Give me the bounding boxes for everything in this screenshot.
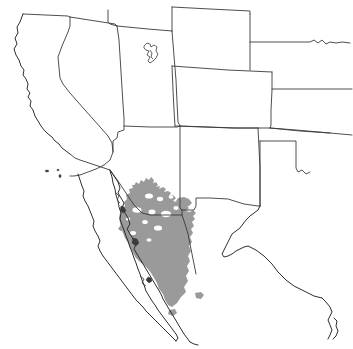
range-hole-6 (161, 211, 171, 217)
range-hole-7 (142, 220, 148, 224)
map-canvas (0, 0, 353, 349)
range-hole-3 (169, 195, 174, 199)
range-hole-1 (145, 193, 153, 198)
range-hole-10 (147, 238, 152, 242)
island-santa-cruz (45, 170, 49, 172)
range-hole-9 (130, 231, 136, 235)
distribution-map-figure: Distribution range Continuous shaded are… (0, 0, 353, 349)
island-santa-catalina (59, 174, 61, 177)
range-hole-2 (157, 197, 163, 201)
island-anacapa (57, 169, 59, 171)
range-hole-8 (154, 225, 162, 230)
range-hole-5 (149, 210, 156, 215)
range-hole-12 (173, 206, 178, 210)
